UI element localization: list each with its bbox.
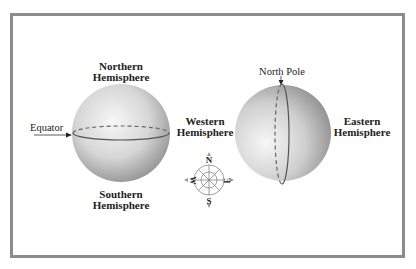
southern-hemisphere-label: Southern Hemisphere bbox=[81, 189, 161, 211]
equator-arrow-icon bbox=[34, 133, 72, 138]
compass-south-label: S bbox=[203, 196, 215, 207]
globe-northern-southern bbox=[72, 84, 170, 182]
eastern-label-line2: Hemisphere bbox=[327, 127, 397, 138]
northern-label-line2: Hemisphere bbox=[81, 72, 161, 83]
north-pole-label: North Pole bbox=[252, 66, 312, 77]
southern-label-line2: Hemisphere bbox=[81, 200, 161, 211]
equator-label: Equator bbox=[30, 122, 74, 133]
compass-west-label: W bbox=[187, 176, 198, 186]
globe-western-eastern bbox=[235, 84, 331, 184]
western-hemisphere-label: Western Hemisphere bbox=[170, 116, 240, 138]
western-label-line2: Hemisphere bbox=[170, 127, 240, 138]
compass-north-label: N bbox=[203, 155, 215, 166]
compass-east-label: E bbox=[222, 176, 233, 186]
eastern-hemisphere-label: Eastern Hemisphere bbox=[327, 116, 397, 138]
northern-hemisphere-label: Northern Hemisphere bbox=[81, 61, 161, 83]
